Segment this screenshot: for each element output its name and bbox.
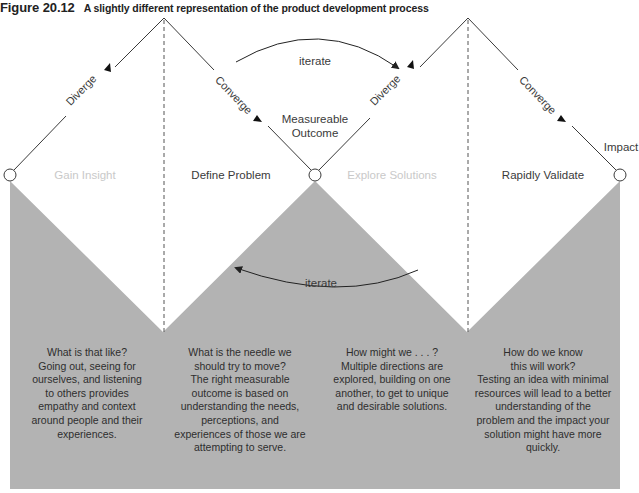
converge-line-2a	[468, 18, 518, 70]
desc-line: another, to get to unique	[317, 387, 467, 401]
diverge-arrow-2-icon	[407, 60, 414, 69]
converge-arrow-2-icon	[557, 115, 566, 122]
start-node	[4, 169, 16, 181]
desc-line: perceptions, and	[160, 414, 320, 428]
desc-line: should try to move?	[160, 360, 320, 374]
phase-gain-insight: Gain Insight	[54, 169, 115, 181]
description-explore-solutions: How might we . . . ? Multiple directions…	[317, 346, 467, 414]
desc-line: this will work?	[463, 360, 623, 374]
desc-line: resources will lead to a better	[463, 387, 623, 401]
description-rapidly-validate: How do we know this will work? Testing a…	[463, 346, 623, 455]
measureable-outcome-line-2: Outcome	[282, 126, 348, 140]
desc-line: solution might have more	[463, 428, 623, 442]
desc-line: ourselves, and listening	[12, 373, 162, 387]
desc-line: What is that like?	[12, 346, 162, 360]
desc-line: How might we . . . ?	[317, 346, 467, 360]
desc-line: quickly.	[463, 441, 623, 455]
desc-line: attempting to serve.	[160, 441, 320, 455]
desc-line: empathy and context	[12, 400, 162, 414]
diverge-line-2b	[420, 18, 468, 67]
desc-line: around people and their	[12, 414, 162, 428]
phase-define-problem: Define Problem	[191, 169, 270, 181]
middle-node	[309, 169, 321, 181]
diverge-line-1b	[115, 18, 164, 67]
desc-line: The right measurable	[160, 373, 320, 387]
desc-line: understanding of the	[463, 400, 623, 414]
desc-line: Testing an idea with minimal	[463, 373, 623, 387]
desc-line: Going out, seeing for	[12, 360, 162, 374]
desc-line: experiences of those we are	[160, 428, 320, 442]
impact-label: Impact	[604, 141, 639, 153]
description-gain-insight: What is that like? Going out, seeing for…	[12, 346, 162, 441]
measureable-outcome-label: Measureable Outcome	[282, 112, 348, 140]
phase-rapidly-validate: Rapidly Validate	[502, 169, 584, 181]
iterate-bottom-label: iterate	[305, 277, 337, 289]
desc-line: understanding the needs,	[160, 400, 320, 414]
desc-line: to others provides	[12, 387, 162, 401]
diverge-arrow-1-icon	[104, 63, 111, 72]
end-node	[614, 169, 626, 181]
desc-line: How do we know	[463, 346, 623, 360]
phase-explore-solutions: Explore Solutions	[347, 169, 437, 181]
desc-line: explored, building on one	[317, 373, 467, 387]
desc-line: problem and the impact your	[463, 414, 623, 428]
desc-line: experiences.	[12, 428, 162, 442]
converge-arrow-1-icon	[253, 115, 262, 122]
iterate-top-label: iterate	[299, 55, 331, 67]
desc-line: What is the needle we	[160, 346, 320, 360]
measureable-outcome-line-1: Measureable	[282, 112, 348, 126]
diverge-line-1a	[14, 116, 66, 170]
desc-line: and desirable solutions.	[317, 400, 467, 414]
desc-line: outcome is based on	[160, 387, 320, 401]
desc-line: Multiple directions are	[317, 360, 467, 374]
converge-line-1a	[164, 18, 214, 70]
description-define-problem: What is the needle we should try to move…	[160, 346, 320, 455]
